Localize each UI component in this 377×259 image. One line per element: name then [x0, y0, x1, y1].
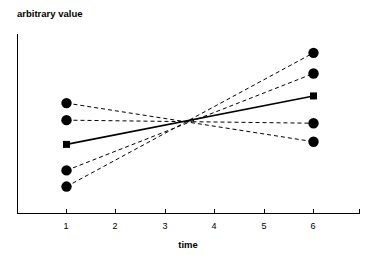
data-point-subject-4-x6 — [308, 48, 318, 58]
data-point-subject-1-x6 — [308, 137, 318, 147]
x-axis-ticks — [67, 209, 360, 214]
x-tick-label-5: 5 — [261, 221, 266, 231]
data-point-subject-3-x1 — [61, 165, 71, 175]
x-tick-label-1: 1 — [63, 221, 68, 231]
data-point-subject-4-x1 — [61, 181, 71, 191]
x-axis-tick-labels: 1 2 3 4 5 6 — [63, 221, 315, 231]
data-point-mean-x1 — [63, 141, 70, 148]
series-lines-group — [67, 53, 314, 187]
series-line-subject-3 — [67, 73, 314, 170]
data-point-mean-x6 — [310, 92, 317, 99]
chart-figure: arbitrary value 1 2 3 4 5 6 time — [0, 0, 377, 259]
data-point-subject-1-x1 — [61, 98, 71, 108]
x-tick-label-3: 3 — [162, 221, 167, 231]
y-axis-title: arbitrary value — [17, 8, 82, 19]
data-point-subject-2-x6 — [308, 118, 318, 128]
x-tick-label-4: 4 — [211, 221, 216, 231]
data-point-subject-3-x6 — [308, 68, 318, 78]
x-tick-label-2: 2 — [112, 221, 117, 231]
x-axis-title: time — [178, 239, 198, 250]
data-point-subject-2-x1 — [61, 115, 71, 125]
series-line-subject-1 — [67, 103, 314, 142]
line-chart: arbitrary value 1 2 3 4 5 6 time — [0, 0, 377, 259]
x-tick-label-6: 6 — [310, 221, 315, 231]
series-line-subject-4 — [67, 53, 314, 187]
